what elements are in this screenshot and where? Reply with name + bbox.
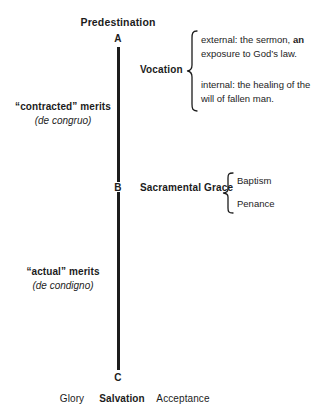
timeline-segment-b-to-c [117,192,120,370]
sacrament-item-baptism: Baptism [237,175,271,186]
node-label-a: A [114,33,122,44]
annotation-actual-merits-line1: “actual” merits [26,265,99,279]
annotation-contracted-merits: “contracted” merits (de congruo) [15,100,111,128]
footer-row: Glory Salvation Acceptance [0,393,314,407]
branch-label-sacramental-grace: Sacramental Grace [140,183,233,193]
sacrament-item-penance: Penance [237,198,275,209]
branch-label-vocation: Vocation [140,65,183,75]
annotation-contracted-merits-line1: “contracted” merits [15,100,111,114]
vocation-item-internal: internal: the healing of the will of fal… [201,78,314,106]
vocation-item-external-suffix: exposure to God’s law. [201,48,297,59]
vocation-item-external-emphasis: an [293,34,304,45]
footer-label-glory: Glory [60,393,84,404]
annotation-actual-merits: “actual” merits (de condigno) [26,265,99,293]
timeline-segment-a-to-b [117,47,120,182]
annotation-actual-merits-line2: (de condigno) [26,279,99,293]
footer-label-salvation: Salvation [99,393,144,404]
vocation-item-external: external: the sermon, an exposure to God… [201,33,314,61]
predestination-diagram: Predestination A B C “contracted” merits… [0,0,314,417]
footer-label-acceptance: Acceptance [156,393,209,404]
curly-brace-icon-sacramental-grace [222,172,236,214]
node-label-c: C [114,372,122,383]
curly-brace-icon-vocation [186,30,200,112]
page-title: Predestination [80,17,155,28]
vocation-item-external-prefix: external: the sermon, [201,34,293,45]
annotation-contracted-merits-line2: (de congruo) [15,114,111,128]
